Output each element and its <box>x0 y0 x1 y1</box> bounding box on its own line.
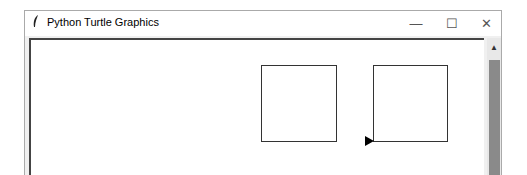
vertical-scrollbar[interactable]: ▲ <box>487 38 501 175</box>
scrollbar-thumb[interactable] <box>489 60 500 175</box>
scroll-up-button[interactable]: ▲ <box>487 38 501 56</box>
turtle-canvas[interactable] <box>29 38 484 175</box>
close-icon: ✕ <box>481 16 492 31</box>
turtle-window: Python Turtle Graphics — ☐ ✕ ▲ <box>24 10 502 175</box>
window-title: Python Turtle Graphics <box>47 16 159 28</box>
minimize-icon: — <box>410 16 423 31</box>
close-button[interactable]: ✕ <box>471 13 501 33</box>
minimize-button[interactable]: — <box>401 13 431 33</box>
maximize-button[interactable]: ☐ <box>437 13 467 33</box>
left-square <box>261 65 337 142</box>
chevron-up-icon: ▲ <box>490 43 498 52</box>
right-square <box>373 65 448 142</box>
maximize-icon: ☐ <box>446 16 458 31</box>
title-bar[interactable]: Python Turtle Graphics — ☐ ✕ <box>25 11 501 35</box>
turtle-arrow-icon <box>365 136 374 146</box>
window-client-area: ▲ <box>25 36 501 175</box>
feather-icon <box>33 15 39 28</box>
